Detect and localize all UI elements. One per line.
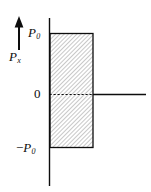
label-p0-negative: −P0 (16, 141, 36, 156)
pulse-rectangle (50, 34, 93, 148)
figure-canvas (0, 0, 151, 192)
axis-direction-arrow-icon (15, 16, 24, 50)
pulse-figure: P0 0 −P0 Px (0, 0, 151, 192)
label-p0-positive: P0 (28, 26, 40, 41)
label-axis-quantity: Px (9, 50, 21, 65)
label-origin: 0 (34, 87, 41, 100)
